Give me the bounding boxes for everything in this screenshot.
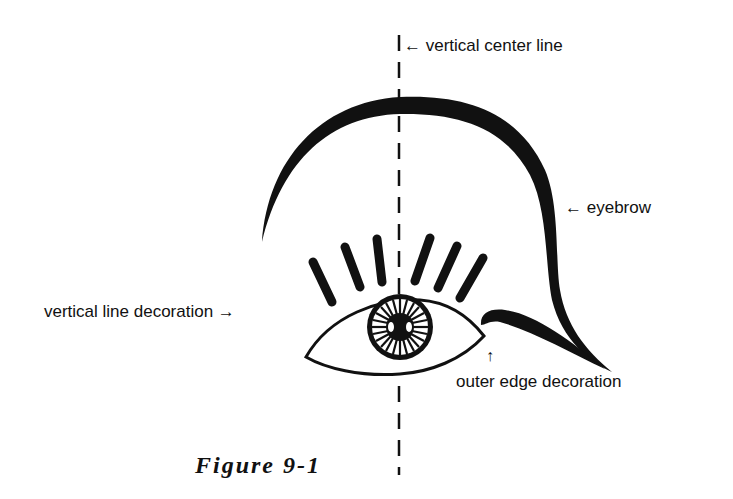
label-vertical-line-decoration: vertical line decoration → (44, 302, 235, 322)
outer-edge-arrow-icon: ↑ (486, 347, 494, 365)
outer-edge-decoration (481, 310, 605, 369)
label-vertical-center-line: ← vertical center line (404, 36, 563, 56)
iris (367, 294, 433, 360)
label-outer-edge-decoration: outer edge decoration (456, 372, 621, 392)
eye-makeup-diagram (0, 0, 733, 499)
figure-canvas: ← vertical center line ← eyebrow vertica… (0, 0, 733, 499)
figure-caption: Figure 9-1 (195, 452, 321, 479)
label-eyebrow: ← eyebrow (565, 198, 651, 218)
